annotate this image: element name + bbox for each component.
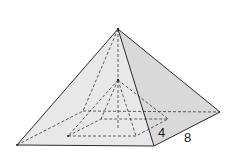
pyramid-diagram: 4 8 [0, 0, 233, 161]
outer-dimension-label: 8 [184, 130, 191, 145]
inner-dimension-label: 4 [158, 125, 165, 140]
